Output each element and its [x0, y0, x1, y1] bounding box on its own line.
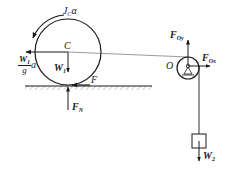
diagram-graphics: [0, 0, 232, 172]
pulley-x-force-label: FOx: [202, 53, 216, 64]
weight2-label: W2: [203, 151, 215, 162]
pulley-center-label: O: [166, 61, 173, 71]
center-label: C: [64, 41, 71, 51]
normal-force-label: FN: [72, 102, 83, 113]
friction-label: F: [91, 75, 97, 85]
rope-horizontal: [68, 52, 188, 57]
pulley-y-force-label: FOy: [170, 30, 184, 41]
inertia-force-label: W1 g: [18, 55, 31, 75]
inertia-moment-label: JCα: [63, 6, 77, 17]
inertia-force-accel-label: a: [31, 60, 36, 70]
free-body-diagram: JCα C W1 g a W1 F FN O FOy FOx W2: [0, 0, 232, 172]
inertia-moment-arc: [33, 15, 64, 38]
ground: [25, 86, 152, 90]
weight1-label: W1: [54, 63, 66, 74]
